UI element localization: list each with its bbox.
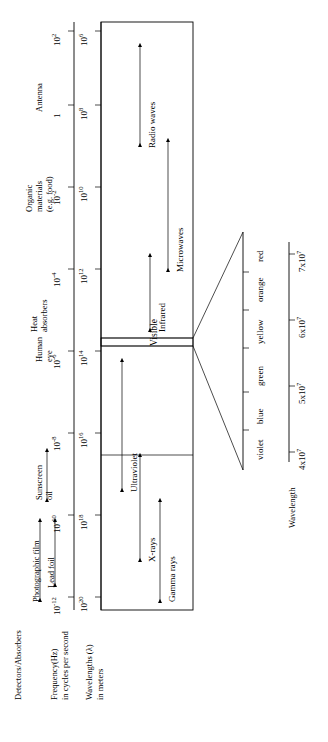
frequency-ticks [95, 31, 101, 597]
visible-tick-4-mantissa: 7x10 [297, 254, 307, 272]
freq-tick-5-exp: 12 [77, 269, 84, 276]
detector-label-sunscreen-oil: oil [45, 491, 54, 500]
row-title-frequency: Frequency(Hz) [50, 649, 59, 700]
visible-tick-1-exp: 7 [295, 449, 302, 452]
wave-tick-5: 10-4 [51, 273, 62, 287]
visible-color-label-orange: orange [256, 278, 265, 303]
detector-label-human-eye: eye [45, 350, 54, 362]
freq-tick-7-base: 10 [79, 111, 89, 120]
visible-color-label-green: green [256, 366, 265, 386]
visible-expansion-wedge [193, 232, 243, 470]
detector-label-heat-absorbers: absorbers [40, 299, 49, 332]
visible-color-label-blue: blue [256, 409, 265, 425]
visible-band [101, 338, 193, 346]
freq-tick-1: 1020 [78, 597, 89, 613]
visible-tick-2-exp: 7 [295, 383, 302, 386]
freq-tick-4-base: 10 [79, 357, 89, 366]
visible-tick-4-exp: 7 [295, 251, 302, 254]
freq-tick-4-exp: 14 [77, 351, 84, 358]
freq-tick-8-base: 10 [79, 37, 89, 46]
wave-tick-5-base: 10 [52, 278, 62, 287]
wavelength-ticks [68, 31, 74, 597]
wave-tick-3: 10-8 [51, 437, 62, 451]
detector-label-organic-food: (e.g. food) [45, 176, 54, 212]
freq-tick-1-exp: 20 [77, 597, 84, 604]
visible-tick-2-mantissa: 5x10 [297, 386, 307, 404]
wave-tick-8-exp: 2 [50, 34, 57, 37]
wave-tick-1-base: 10 [52, 606, 62, 615]
wave-tick-3-base: 10 [52, 442, 62, 451]
freq-tick-5: 1012 [78, 269, 89, 285]
freq-tick-1-base: 10 [79, 603, 89, 612]
freq-tick-3-exp: 16 [77, 433, 84, 440]
band-dividers [101, 338, 193, 455]
band-label-gamma-rays: Gamma rays [168, 556, 177, 602]
visible-tick-1: 4x107 [296, 449, 307, 470]
visible-color-dividers [243, 272, 249, 430]
visible-tick-3-exp: 7 [295, 317, 302, 320]
visible-detail-axis-label: Wavelength [288, 488, 297, 528]
band-label-x-rays: X-rays [148, 538, 157, 563]
freq-tick-3: 1016 [78, 433, 89, 449]
row-title-detectors: Detectors/Absorbers [14, 630, 23, 700]
wave-tick-8-base: 10 [52, 37, 62, 46]
diagram-lines [0, 0, 328, 742]
detector-label-sunscreen: Sunscreen [35, 465, 44, 500]
wave-tick-7: 1 [51, 114, 62, 119]
visible-color-label-violet: violet [256, 440, 265, 461]
visible-tick-3: 6x107 [296, 317, 307, 338]
band-label-microwaves: Microwaves [176, 228, 185, 273]
row-title-frequency-sub: in cycles per second [61, 631, 70, 700]
wave-tick-3-exp: -8 [50, 437, 57, 442]
detector-label-organic-materials: materials [35, 181, 44, 212]
spectrum-diagram: Detectors/Absorbers Frequency(Hz) in cyc… [0, 0, 328, 742]
band-label-infrared: Infrared [158, 303, 167, 332]
wave-tick-2-base: 10 [52, 524, 62, 533]
detector-label-lead-foil: Lead foil [47, 557, 56, 588]
wave-tick-7-base: 1 [52, 114, 62, 119]
row-title-wavelength-sub: in meters [96, 669, 105, 700]
freq-tick-6: 1010 [78, 187, 89, 203]
visible-tick-4: 7x107 [296, 251, 307, 272]
freq-tick-8-exp: 6 [77, 34, 84, 37]
visible-wavelength-ticks [289, 254, 295, 452]
detector-label-antenna: Antenna [35, 83, 44, 112]
visible-tick-3-mantissa: 6x10 [297, 320, 307, 338]
freq-tick-8: 106 [78, 34, 89, 46]
freq-tick-7-exp: 8 [77, 108, 84, 111]
band-label-ultraviolet: Ultraviolet [130, 453, 139, 492]
freq-tick-3-base: 10 [79, 439, 89, 448]
wave-tick-2-exp: -10 [50, 515, 57, 524]
detector-label-heat: Heat [30, 316, 39, 332]
freq-tick-6-exp: 10 [77, 187, 84, 194]
freq-tick-6-base: 10 [79, 193, 89, 202]
detector-label-organic: Organic [25, 185, 34, 212]
freq-tick-2-exp: 18 [77, 515, 84, 522]
row-title-wavelength: Wavelengths (λ) [85, 644, 94, 700]
band-label-radio-waves: Radio waves [148, 102, 157, 148]
freq-tick-5-base: 10 [79, 275, 89, 284]
wave-tick-2: 10-10 [51, 515, 62, 533]
wave-tick-1-exp: -12 [50, 597, 57, 606]
freq-tick-2: 1018 [78, 515, 89, 531]
visible-tick-2: 5x107 [296, 383, 307, 404]
freq-tick-2-base: 10 [79, 521, 89, 530]
freq-tick-4: 1014 [78, 351, 89, 367]
visible-tick-1-mantissa: 4x10 [297, 452, 307, 470]
detector-label-human: Human [35, 337, 44, 362]
wave-tick-8: 102 [51, 34, 62, 46]
wave-tick-1: 10-12 [51, 597, 62, 615]
detector-label-photographic-film: Photographic film [32, 540, 41, 602]
freq-tick-7: 108 [78, 108, 89, 120]
visible-color-label-yellow: yellow [256, 320, 265, 345]
wave-tick-5-exp: -4 [50, 273, 57, 278]
visible-color-label-red: red [256, 251, 265, 263]
